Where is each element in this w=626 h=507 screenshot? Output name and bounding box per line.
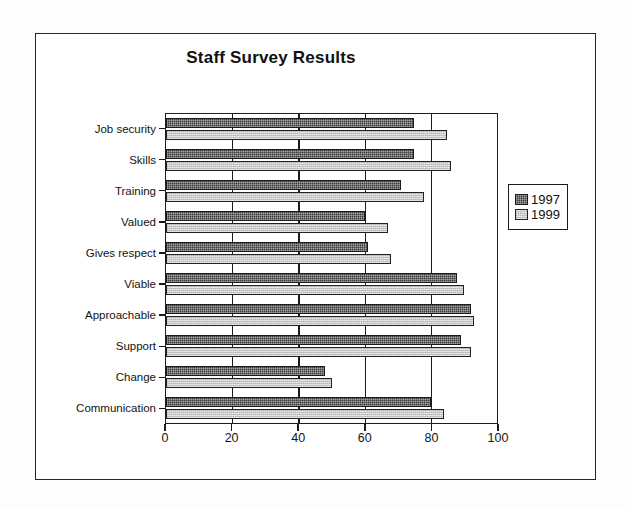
- x-axis-tick-40: [297, 424, 299, 431]
- x-axis-tick-label-100: 100: [488, 431, 509, 445]
- legend-item-1999: 1999: [515, 208, 560, 221]
- x-axis-tick-100: [497, 424, 499, 431]
- y-axis-label-0: Job security: [36, 113, 165, 144]
- legend-label-1999: 1999: [531, 208, 560, 221]
- bar-1999: [166, 347, 471, 357]
- bar-1999: [166, 254, 391, 264]
- y-axis-label-text: Change: [116, 371, 156, 383]
- chart-page: Staff Survey Results Job security Skills…: [0, 0, 626, 507]
- bar-1999: [166, 192, 424, 202]
- bar-row: [166, 145, 497, 176]
- y-axis-label-7: Support: [36, 331, 165, 362]
- y-axis-label-text: Job security: [95, 123, 156, 135]
- legend-item-1997: 1997: [515, 193, 560, 206]
- y-axis-label-text: Skills: [129, 154, 156, 166]
- bar-row: [166, 176, 497, 207]
- bar-1997: [166, 304, 471, 314]
- legend-label-1997: 1997: [531, 193, 560, 206]
- bar-1999: [166, 409, 444, 419]
- x-axis-tick-20: [231, 424, 233, 431]
- y-axis-label-5: Viable: [36, 268, 165, 299]
- y-axis-label-9: Communication: [36, 393, 165, 424]
- bar-1997: [166, 211, 365, 221]
- bar-1999: [166, 223, 388, 233]
- x-axis-tick-label-80: 80: [424, 431, 438, 445]
- bar-1999: [166, 378, 332, 388]
- y-axis-label-text: Valued: [121, 216, 156, 228]
- y-axis-label-text: Communication: [76, 402, 156, 414]
- chart-frame: Staff Survey Results Job security Skills…: [35, 33, 596, 480]
- bar-1997: [166, 180, 401, 190]
- bar-1999: [166, 285, 464, 295]
- bar-row: [166, 238, 497, 269]
- y-axis-category-labels: Job security Skills Training Valued Give…: [36, 113, 165, 424]
- y-axis-label-4: Gives respect: [36, 237, 165, 268]
- bar-rows: [166, 114, 497, 423]
- bar-row: [166, 114, 497, 145]
- bar-1997: [166, 242, 368, 252]
- bar-row: [166, 330, 497, 361]
- bar-1997: [166, 118, 414, 128]
- y-axis-label-text: Approachable: [85, 309, 156, 321]
- y-axis-label-1: Skills: [36, 144, 165, 175]
- bar-1997: [166, 397, 431, 407]
- x-axis-tick-label-0: 0: [162, 431, 169, 445]
- y-axis-label-8: Change: [36, 362, 165, 393]
- x-axis-tick-0: [164, 424, 166, 431]
- y-axis-label-text: Training: [115, 185, 156, 197]
- x-axis-tick-60: [364, 424, 366, 431]
- bar-1999: [166, 316, 474, 326]
- y-axis-label-text: Viable: [124, 278, 156, 290]
- bar-1997: [166, 273, 457, 283]
- y-axis-label-text: Support: [116, 340, 156, 352]
- bar-1997: [166, 335, 461, 345]
- bar-1999: [166, 161, 451, 171]
- x-axis-tick-label-60: 60: [358, 431, 372, 445]
- x-axis-tick-label-40: 40: [291, 431, 305, 445]
- plot-area: [165, 113, 498, 424]
- x-axis-tick-label-20: 20: [225, 431, 239, 445]
- y-axis-label-3: Valued: [36, 206, 165, 237]
- bar-1997: [166, 149, 414, 159]
- bar-row: [166, 361, 497, 392]
- x-axis-labels: 020406080100: [165, 431, 498, 451]
- bar-row: [166, 299, 497, 330]
- y-axis-label-6: Approachable: [36, 300, 165, 331]
- legend-swatch-icon-1999: [515, 209, 528, 220]
- bar-row: [166, 392, 497, 423]
- legend: 1997 1999: [508, 184, 568, 230]
- bar-row: [166, 207, 497, 238]
- x-axis-tick-80: [431, 424, 433, 431]
- bar-1999: [166, 130, 447, 140]
- x-axis-ticks: [165, 424, 498, 431]
- y-axis-label-2: Training: [36, 175, 165, 206]
- y-axis-label-text: Gives respect: [86, 247, 156, 259]
- chart-title: Staff Survey Results: [36, 48, 506, 68]
- bar-1997: [166, 366, 325, 376]
- legend-swatch-icon-1997: [515, 194, 528, 205]
- bar-row: [166, 269, 497, 300]
